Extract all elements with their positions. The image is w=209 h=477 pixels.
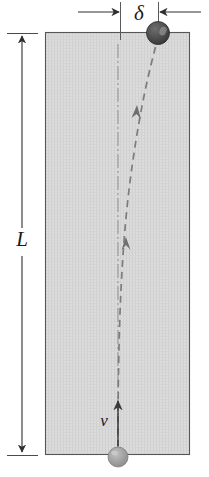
light-ball-highlight xyxy=(111,451,117,456)
dark-ball xyxy=(147,22,170,45)
dark-ball-body xyxy=(147,22,170,45)
length-label: L xyxy=(15,227,28,251)
light-ball xyxy=(108,447,128,467)
delta-label: δ xyxy=(134,1,145,25)
physics-figure: δ L v xyxy=(0,0,209,477)
light-ball-body xyxy=(108,447,128,467)
velocity-label: v xyxy=(100,411,108,430)
length-dimension: L xyxy=(7,34,38,456)
figure-canvas: δ L v xyxy=(0,0,209,477)
